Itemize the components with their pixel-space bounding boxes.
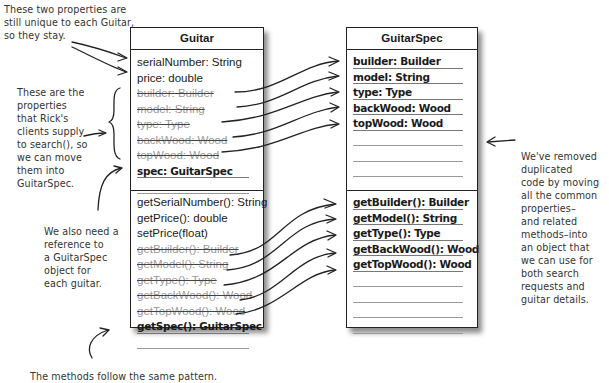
arrow-spec-reference-icon bbox=[98, 166, 122, 210]
arrow-removed-duplication-icon bbox=[487, 137, 515, 146]
arrow-unique-properties-icon bbox=[72, 42, 127, 75]
brace-search-properties-icon bbox=[84, 88, 120, 159]
arrows-attributes-move-icon bbox=[222, 57, 339, 152]
arrow-methods-pattern-icon bbox=[89, 328, 109, 358]
arrows-methods-move-icon bbox=[224, 199, 336, 314]
